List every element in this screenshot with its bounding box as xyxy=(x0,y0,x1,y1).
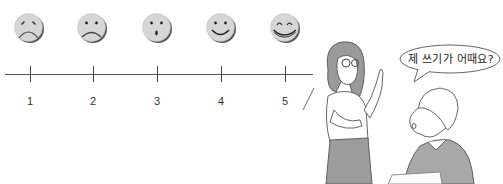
smile-face-icon xyxy=(205,12,237,44)
scale-tick-5 xyxy=(285,66,286,82)
very-sad-face-icon xyxy=(13,12,45,44)
speech-bubble-text: 제 쓰기가 어때요? xyxy=(405,50,497,66)
scale-tick-4 xyxy=(221,66,222,82)
student-figure xyxy=(404,88,474,184)
scale-label-1: 1 xyxy=(20,95,40,107)
surprised-face-icon xyxy=(141,12,173,44)
big-smile-face-icon xyxy=(269,12,301,44)
scale-label-3: 3 xyxy=(147,95,167,107)
sad-face-icon xyxy=(76,12,108,44)
scale-tick-1 xyxy=(30,66,31,82)
teacher-student-illustration xyxy=(300,0,503,184)
scale-label-5: 5 xyxy=(275,95,295,107)
scale-tick-2 xyxy=(93,66,94,82)
rating-scale-line xyxy=(5,74,313,75)
scale-label-2: 2 xyxy=(83,95,103,107)
teacher-figure xyxy=(326,42,383,184)
scale-tick-3 xyxy=(157,66,158,82)
scale-label-4: 4 xyxy=(211,95,231,107)
